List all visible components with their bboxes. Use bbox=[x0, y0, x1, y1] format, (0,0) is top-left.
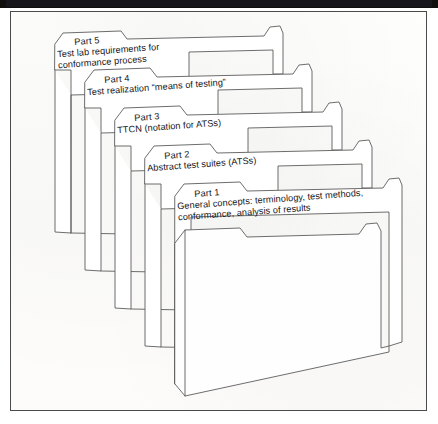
figure-frame: Part 5 Test lab requirements for conform… bbox=[10, 11, 427, 411]
scan-edge-bar-inner bbox=[6, 0, 432, 7]
scan-edge-bar bbox=[0, 0, 438, 8]
figure-page: Part 5 Test lab requirements for conform… bbox=[0, 0, 438, 424]
folder-part-5-label: Part 5 Test lab requirements for conform… bbox=[74, 31, 161, 71]
